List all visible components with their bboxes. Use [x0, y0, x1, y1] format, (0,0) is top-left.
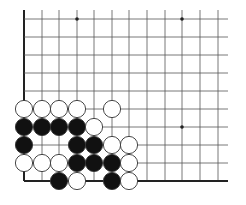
white-stone: [33, 154, 50, 171]
star-point-icon: [180, 125, 184, 129]
white-stone: [15, 154, 32, 171]
black-stone: [50, 172, 67, 189]
white-stone: [33, 100, 50, 117]
black-stone: [15, 136, 32, 153]
star-point-icon: [75, 17, 79, 21]
black-stone: [68, 118, 85, 135]
white-stone: [50, 100, 67, 117]
black-stone: [50, 118, 67, 135]
white-stone: [103, 136, 120, 153]
black-stone: [15, 118, 32, 135]
black-stone: [103, 172, 120, 189]
white-stone: [50, 154, 67, 171]
black-stone: [85, 154, 102, 171]
black-stone: [33, 118, 50, 135]
white-stone: [85, 118, 102, 135]
star-point-icon: [180, 17, 184, 21]
white-stone: [103, 100, 120, 117]
white-stone: [120, 136, 137, 153]
black-stone: [85, 136, 102, 153]
white-stone: [68, 100, 85, 117]
white-stone: [120, 172, 137, 189]
black-stone: [68, 154, 85, 171]
black-stone: [103, 154, 120, 171]
white-stone: [120, 154, 137, 171]
go-board: [0, 0, 246, 205]
black-stone: [68, 136, 85, 153]
white-stone: [15, 100, 32, 117]
white-stone: [68, 172, 85, 189]
